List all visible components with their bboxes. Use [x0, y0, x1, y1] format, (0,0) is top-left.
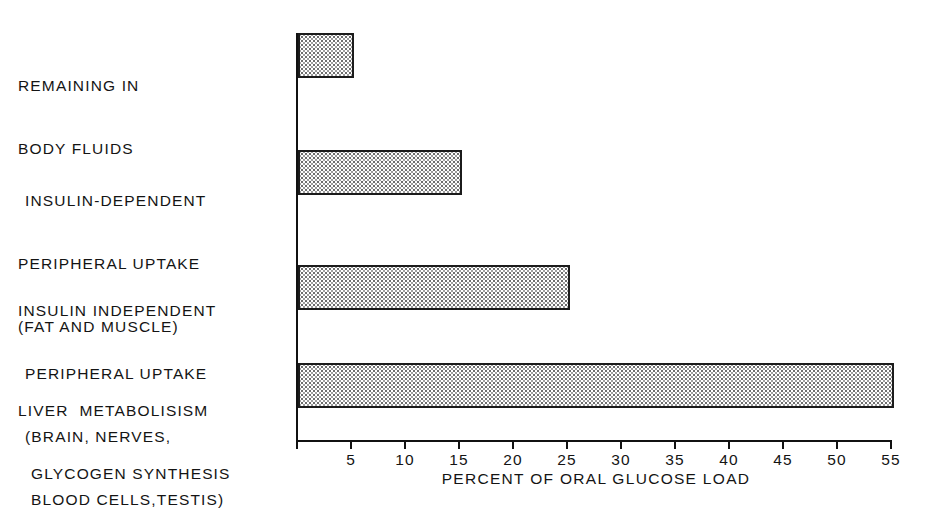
x-tick-label-40: 40: [719, 451, 738, 469]
x-tick-40: [728, 440, 730, 449]
x-tick-15: [458, 440, 460, 449]
x-tick-5: [350, 440, 352, 449]
axis-cap-left: [296, 440, 298, 449]
x-tick-50: [836, 440, 838, 449]
x-axis-title: PERCENT OF ORAL GLUCOSE LOAD: [296, 470, 896, 488]
bar-chart: REMAINING IN BODY FLUIDS INSULIN-DEPENDE…: [0, 0, 936, 512]
label-line: REMAINING IN: [18, 75, 290, 96]
x-tick-label-20: 20: [503, 451, 522, 469]
bar-insulin-dependent-peripheral-uptake: [298, 150, 462, 195]
x-tick-label-5: 5: [346, 451, 356, 469]
x-tick-30: [620, 440, 622, 449]
x-tick-45: [782, 440, 784, 449]
bar-insulin-independent-peripheral-uptake: [298, 265, 570, 310]
label-line: LIVER METABOLISISM: [18, 400, 290, 421]
x-tick-label-55: 55: [881, 451, 900, 469]
x-tick-label-15: 15: [449, 451, 468, 469]
x-tick-label-35: 35: [665, 451, 684, 469]
label-line: INSULIN INDEPENDENT: [18, 300, 290, 321]
bar-remaining-in-body-fluids: [298, 33, 354, 78]
x-tick-label-30: 30: [611, 451, 630, 469]
x-tick-label-50: 50: [827, 451, 846, 469]
x-tick-10: [404, 440, 406, 449]
bar-liver-metabolism: [298, 363, 894, 408]
x-tick-25: [566, 440, 568, 449]
x-axis-line: [296, 440, 892, 442]
x-tick-55: [890, 440, 892, 449]
x-tick-label-25: 25: [557, 451, 576, 469]
x-tick-label-10: 10: [395, 451, 414, 469]
category-label-liver-metabolism: LIVER METABOLISISM GLYCOGEN SYNTHESIS TR…: [18, 358, 290, 512]
plot-area: 510152025303540455055: [296, 30, 896, 444]
x-tick-label-45: 45: [773, 451, 792, 469]
label-line: GLYCOGEN SYNTHESIS: [18, 463, 290, 484]
x-tick-35: [674, 440, 676, 449]
x-tick-20: [512, 440, 514, 449]
label-line: INSULIN-DEPENDENT: [18, 190, 290, 211]
